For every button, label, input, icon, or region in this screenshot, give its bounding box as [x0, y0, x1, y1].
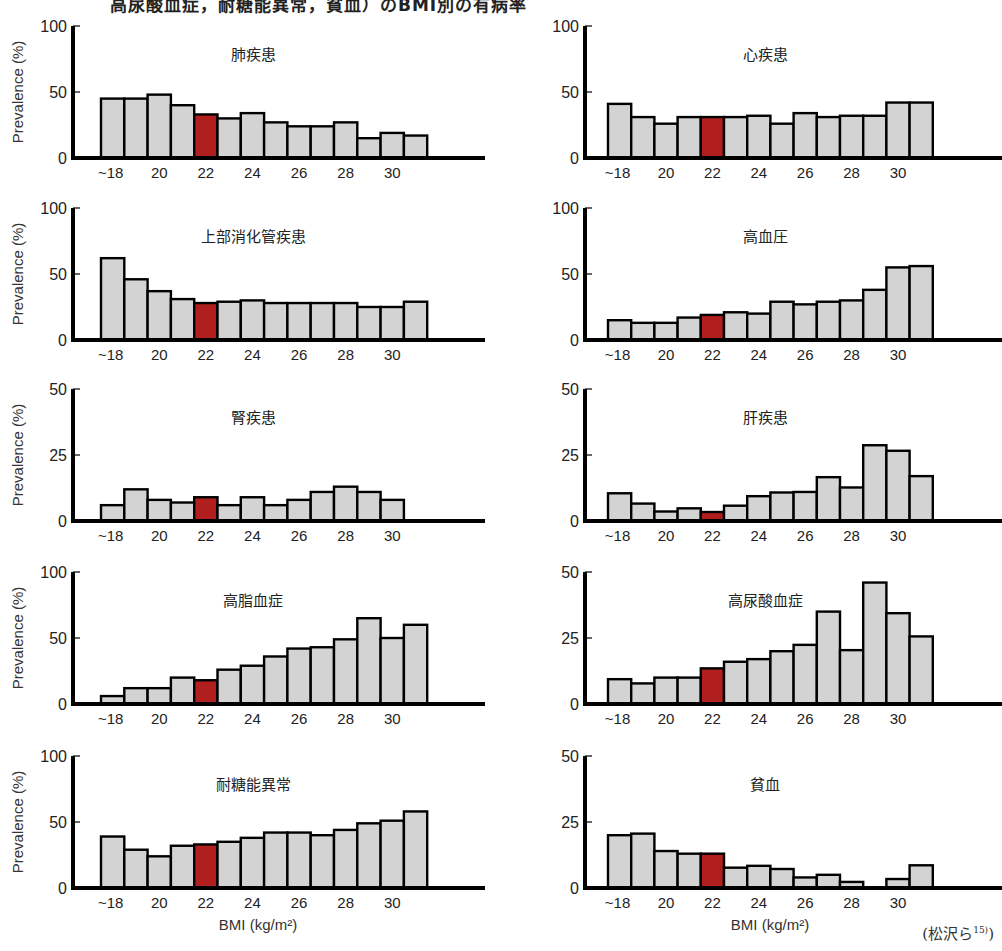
bar-chart: 高血圧050100~18202224262830: [512, 182, 1002, 382]
y-tick-label: 100: [40, 564, 67, 581]
x-tick-label: ~18: [605, 527, 630, 544]
bar: [747, 496, 770, 521]
bar-chart: 上部消化管疾患050100~18202224262830Prevalence (…: [0, 182, 500, 382]
bar: [840, 116, 863, 158]
bar-highlight: [701, 668, 724, 704]
bar: [171, 678, 194, 704]
chart-title: 肺疾患: [231, 46, 276, 64]
x-tick-label: 22: [198, 164, 215, 181]
bar: [678, 678, 701, 704]
x-tick-label: 26: [291, 527, 308, 544]
bar: [334, 830, 357, 888]
bar-highlight: [194, 114, 217, 158]
chart-title: 耐糖能異常: [216, 776, 291, 794]
bar: [631, 834, 654, 888]
x-tick-label: 22: [704, 164, 721, 181]
bar: [357, 618, 380, 704]
bar: [124, 489, 147, 521]
bar: [886, 451, 909, 521]
y-tick-label: 50: [49, 814, 67, 831]
bar: [608, 679, 631, 704]
bar: [840, 487, 863, 521]
x-tick-label: 22: [198, 894, 215, 911]
x-tick-label: 22: [198, 346, 215, 363]
y-axis-label: Prevalence (%): [9, 771, 26, 874]
bar: [381, 307, 404, 340]
chart-title: 上部消化管疾患: [201, 228, 306, 246]
bar-highlight: [701, 117, 724, 158]
y-tick-label: 50: [561, 84, 579, 101]
y-tick-label: 25: [561, 814, 579, 831]
citation: (松沢ら15)): [922, 922, 994, 943]
bar: [404, 811, 427, 888]
x-tick-label: ~18: [98, 346, 123, 363]
bar-chart: 耐糖能異常050100~18202224262830Prevalence (%)…: [0, 730, 500, 930]
x-tick-label: 30: [384, 346, 401, 363]
bar: [608, 104, 631, 158]
x-tick-label: 24: [750, 164, 767, 181]
bar: [241, 497, 264, 521]
y-tick-label: 50: [49, 266, 67, 283]
x-tick-label: 22: [704, 527, 721, 544]
bar: [678, 854, 701, 888]
chart-title: 腎疾患: [231, 409, 276, 427]
bar: [724, 506, 747, 521]
bar: [910, 636, 933, 704]
x-tick-label: 28: [843, 710, 860, 727]
x-tick-label: 30: [890, 346, 907, 363]
bar-highlight: [701, 854, 724, 888]
bar: [287, 303, 310, 340]
y-tick-label: 100: [40, 200, 67, 217]
bar: [264, 833, 287, 888]
y-tick-label: 0: [58, 513, 67, 530]
x-tick-label: 30: [890, 894, 907, 911]
bar: [404, 302, 427, 340]
y-tick-label: 25: [49, 447, 67, 464]
bar: [218, 505, 241, 521]
bar: [357, 492, 380, 521]
bar: [264, 505, 287, 521]
x-tick-label: ~18: [605, 894, 630, 911]
bar: [311, 492, 334, 521]
bar: [241, 113, 264, 158]
chart-title: 高尿酸血症: [728, 592, 803, 610]
x-tick-label: 24: [750, 527, 767, 544]
bar: [124, 850, 147, 888]
chart-panel-hypertension: 高血圧050100~18202224262830: [512, 182, 1002, 362]
x-tick-label: 30: [890, 164, 907, 181]
bar: [724, 868, 747, 888]
x-tick-label: 24: [244, 164, 261, 181]
x-tick-label: 26: [797, 710, 814, 727]
bar: [334, 122, 357, 158]
bar: [608, 320, 631, 340]
x-tick-label: 26: [291, 346, 308, 363]
bar: [724, 662, 747, 704]
bar: [381, 133, 404, 158]
x-tick-label: 24: [244, 346, 261, 363]
bar: [886, 103, 909, 158]
y-tick-label: 100: [40, 18, 67, 35]
x-axis-label: BMI (kg/m²): [731, 916, 809, 933]
bar: [381, 500, 404, 521]
bar-chart: 心疾患050100~18202224262830: [512, 0, 1002, 200]
bar: [886, 267, 909, 340]
x-tick-label: 24: [244, 894, 261, 911]
bar: [840, 650, 863, 704]
bar: [218, 118, 241, 158]
chart-title: 高脂血症: [223, 592, 283, 610]
bar: [264, 656, 287, 704]
bar-chart: 肺疾患050100~18202224262830Prevalence (%): [0, 0, 500, 200]
bar: [794, 113, 817, 158]
bar: [747, 866, 770, 888]
bar: [654, 851, 677, 888]
x-tick-label: 20: [658, 346, 675, 363]
x-tick-label: 26: [797, 527, 814, 544]
x-tick-label: 28: [337, 164, 354, 181]
x-tick-label: ~18: [98, 710, 123, 727]
x-tick-label: 30: [384, 527, 401, 544]
bar: [171, 846, 194, 888]
bar: [910, 476, 933, 521]
x-tick-label: 20: [658, 710, 675, 727]
bar-chart: 腎疾患02550~18202224262830Prevalence (%): [0, 363, 500, 563]
bar: [357, 138, 380, 158]
